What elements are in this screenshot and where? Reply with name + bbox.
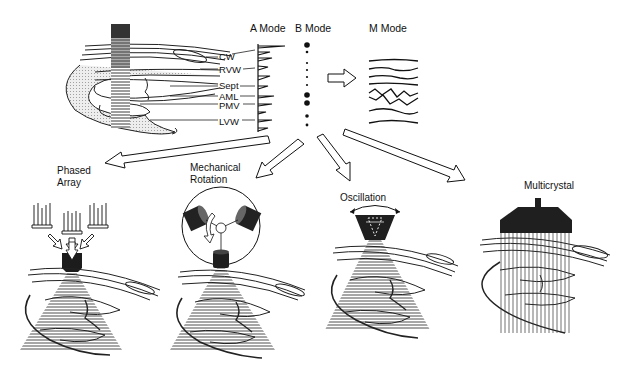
structure-label-cw: CW [219, 51, 235, 62]
mechanical-rotation-illustration [182, 187, 261, 268]
structure-label-sept: Sept [219, 80, 239, 91]
panel-label-multicrystal: Multicrystal [524, 180, 574, 192]
structure-label-lvw: LVW [219, 116, 239, 127]
panel-label-phased-array: Phased Array [57, 165, 91, 189]
multicrystal-illustration [500, 198, 572, 233]
panel-label-oscillation: Oscillation [340, 192, 386, 204]
oscillation-scan [325, 240, 458, 338]
oscillation-arc-arrow-icon [350, 206, 400, 213]
phased-array-transducer [62, 242, 82, 272]
branch-arrows [105, 129, 465, 182]
b-mode-label: B Mode [295, 23, 331, 34]
heart-cross-section-top [66, 44, 232, 134]
arrow-to-multicrystal [343, 129, 465, 182]
arrow-to-mechanical-rotation [256, 139, 304, 178]
panel-label-mechanical-rotation: Mechanical Rotation [190, 162, 241, 186]
m-mode-traces [369, 60, 418, 124]
arrow-to-oscillation [317, 134, 350, 181]
structure-label-rvw: RVW [219, 64, 241, 75]
multicrystal-scan [480, 233, 610, 333]
ultrasound-beam-top [111, 24, 130, 128]
a-mode-trace [258, 44, 285, 132]
arrow-to-phased-array [105, 136, 270, 168]
structure-label-pmv: PMV [219, 100, 240, 111]
phased-array-scan [20, 268, 160, 355]
b-mode-dots [304, 42, 310, 126]
arrow-to-m-mode [328, 69, 356, 87]
m-mode-label: M Mode [369, 23, 407, 34]
oscillation-illustration [350, 206, 400, 241]
mechanical-rotation-scan [170, 268, 306, 358]
a-mode-label: A Mode [250, 23, 286, 34]
